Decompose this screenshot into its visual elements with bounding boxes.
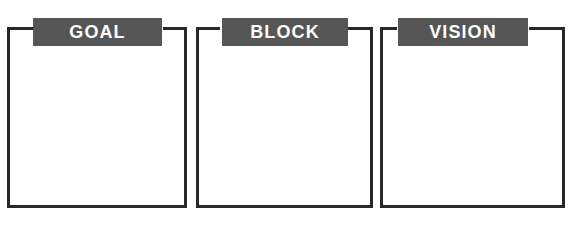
top-border-stub-right-block: [348, 27, 373, 30]
top-border-stub-left-goal: [7, 27, 33, 30]
top-border-stub-left-vision: [380, 27, 397, 30]
diagram-canvas: GOAL BLOCK VISION: [0, 0, 574, 225]
label-banner-vision[interactable]: VISION: [398, 18, 528, 46]
label-text-vision: VISION: [429, 23, 497, 41]
box-frame-block: [196, 27, 373, 208]
bracket-box-block[interactable]: BLOCK: [196, 0, 373, 225]
label-banner-goal[interactable]: GOAL: [33, 18, 162, 46]
bracket-box-goal[interactable]: GOAL: [7, 0, 187, 225]
label-banner-block[interactable]: BLOCK: [222, 18, 348, 46]
top-border-stub-right-vision: [529, 27, 565, 30]
top-border-stub-left-block: [196, 27, 220, 30]
box-frame-vision: [380, 27, 565, 208]
bracket-box-vision[interactable]: VISION: [380, 0, 565, 225]
label-text-goal: GOAL: [69, 23, 125, 41]
top-border-stub-right-goal: [163, 27, 187, 30]
label-text-block: BLOCK: [250, 23, 320, 41]
box-frame-goal: [7, 27, 187, 208]
